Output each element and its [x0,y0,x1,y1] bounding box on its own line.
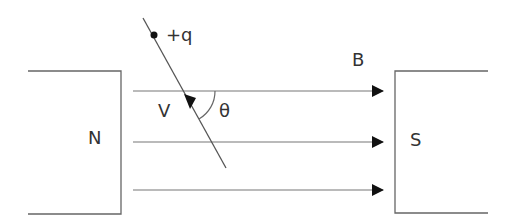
angle-arc [199,91,215,119]
north-magnet: N [28,71,121,214]
velocity-label: V [158,100,171,121]
field-lines [133,91,383,190]
magnetic-field-diagram: N S B +q V θ [0,0,513,222]
velocity-arrowhead-icon [184,94,196,109]
north-pole-label: N [88,127,101,148]
charge-dot-icon [151,32,158,39]
south-magnet: S [395,71,488,213]
field-label: B [352,49,364,70]
angle-label: θ [219,100,230,121]
charge-label: +q [166,24,193,45]
south-pole-label: S [410,129,421,150]
